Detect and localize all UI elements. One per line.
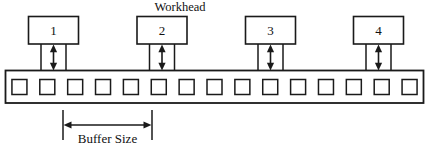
buffer-arrow-head-left: [64, 122, 72, 129]
buffer-size-label: Buffer Size: [78, 131, 138, 146]
conveyor-slot: [40, 80, 55, 95]
conveyor-slot: [96, 80, 111, 95]
conveyor-slot: [12, 80, 27, 95]
conveyor-slot: [402, 80, 417, 95]
workhead-buffer-diagram: Workhead 1 2: [0, 0, 430, 150]
workhead-number-2: 2: [159, 23, 166, 38]
workhead-number-4: 4: [375, 23, 382, 38]
buffer-size-dimension: Buffer Size: [63, 110, 152, 146]
workhead-station-3: 3: [246, 17, 296, 72]
workhead-station-4: 4: [354, 17, 404, 72]
workhead-number-1: 1: [50, 23, 57, 38]
workhead-motion-arrow-2: [158, 45, 165, 71]
workhead-caption: Workhead: [154, 0, 206, 14]
conveyor-slot: [235, 80, 250, 95]
workhead-station-2: 2: [137, 17, 187, 72]
workhead-number-3: 3: [267, 23, 274, 38]
conveyor-slot: [291, 80, 306, 95]
conveyor-slot: [68, 80, 83, 95]
workhead-station-1: 1: [29, 17, 79, 72]
conveyor-slot: [263, 80, 278, 95]
workhead-motion-arrow-1: [50, 45, 57, 71]
conveyor-slot: [346, 80, 361, 95]
workhead-motion-arrow-3: [267, 45, 274, 71]
conveyor-slot-group: [12, 80, 417, 95]
conveyor-slot: [179, 80, 194, 95]
conveyor-slot: [318, 80, 333, 95]
buffer-arrow-head-right: [144, 122, 152, 129]
conveyor-slot: [374, 80, 389, 95]
diagram-canvas: Workhead 1 2: [0, 0, 430, 150]
conveyor-slot: [151, 80, 166, 95]
conveyor-slot: [123, 80, 138, 95]
workhead-motion-arrow-4: [375, 45, 382, 71]
conveyor-slot: [207, 80, 222, 95]
